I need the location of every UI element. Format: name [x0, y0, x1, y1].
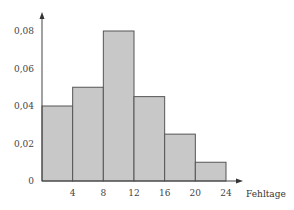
y-tick-label: 0: [28, 176, 34, 186]
histogram-bar: [73, 87, 104, 181]
histogram-bar: [195, 162, 226, 181]
y-tick-labels: 00,020,040,060,08: [14, 26, 34, 186]
x-tick-label: 16: [159, 188, 171, 198]
x-tick-labels: 4812162024: [70, 188, 232, 198]
x-tick-label: 24: [220, 188, 232, 198]
histogram-chart: 00,020,040,060,08 4812162024 Fehltage: [0, 0, 294, 210]
x-tick-label: 4: [70, 188, 76, 198]
x-tick-label: 20: [190, 188, 202, 198]
y-axis-arrow-icon: [40, 12, 45, 19]
x-tick-label: 8: [100, 188, 106, 198]
y-tick-label: 0,06: [14, 64, 34, 74]
y-tick-label: 0,08: [14, 26, 34, 36]
y-tick-label: 0,04: [14, 101, 34, 111]
histogram-bar: [134, 97, 165, 181]
x-tick-label: 12: [128, 188, 139, 198]
y-tick-label: 0,02: [14, 139, 34, 149]
histogram-bar: [103, 31, 134, 181]
histogram-bar: [165, 134, 196, 181]
histogram-bar: [42, 106, 73, 181]
x-axis-arrow-icon: [236, 179, 243, 184]
histogram-bars: [42, 31, 226, 181]
x-axis-label: Fehltage: [246, 189, 286, 199]
